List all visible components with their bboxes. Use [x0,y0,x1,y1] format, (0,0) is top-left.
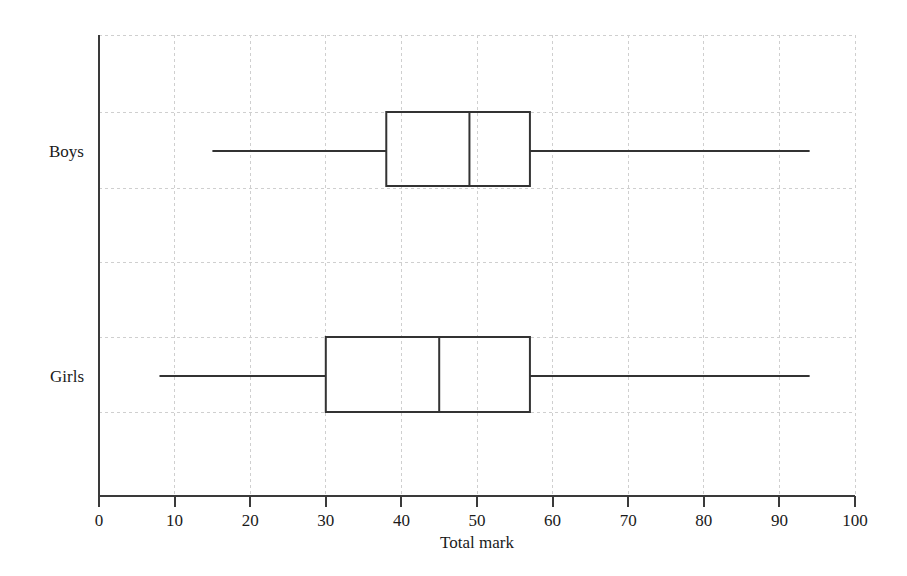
category-axis-labels: BoysGirls [49,142,84,386]
x-tick-label: 10 [166,511,183,530]
x-tick-label: 40 [393,511,410,530]
x-tick-label: 20 [242,511,259,530]
x-axis-title: Total mark [440,533,514,552]
boxplot-boys [212,112,809,186]
box-iqr [326,337,530,412]
box-iqr [386,112,530,186]
x-tick-label: 70 [620,511,637,530]
x-tick-label: 50 [469,511,486,530]
x-tick-label: 60 [544,511,561,530]
vertical-gridlines [175,35,855,496]
x-tick-label: 80 [695,511,712,530]
boxplot-canvas: 0102030405060708090100 BoysGirls Total m… [0,0,907,576]
x-tick-label: 90 [771,511,788,530]
boxplot-girls [159,337,809,412]
box-plot-chart: 0102030405060708090100 BoysGirls Total m… [0,0,907,576]
category-label-girls: Girls [50,367,84,386]
x-tick-label: 100 [842,511,868,530]
x-tick-label: 0 [95,511,104,530]
category-label-boys: Boys [49,142,84,161]
x-tick-label: 30 [317,511,334,530]
x-axis-tick-labels: 0102030405060708090100 [95,511,868,530]
x-axis-ticks [99,496,855,507]
